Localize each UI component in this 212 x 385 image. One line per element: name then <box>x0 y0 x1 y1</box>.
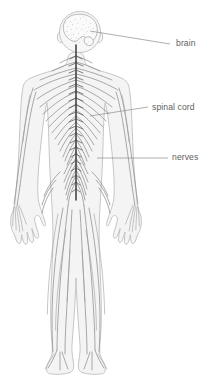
nervous-system-illustration: brain spinal cord nerves <box>0 0 212 385</box>
label-nerves: nerves <box>172 152 198 162</box>
nervous-system-figure: brain spinal cord nerves <box>0 0 212 385</box>
label-brain: brain <box>176 38 196 48</box>
cerebellum-shape <box>84 37 93 46</box>
label-spinal-cord: spinal cord <box>152 102 195 112</box>
